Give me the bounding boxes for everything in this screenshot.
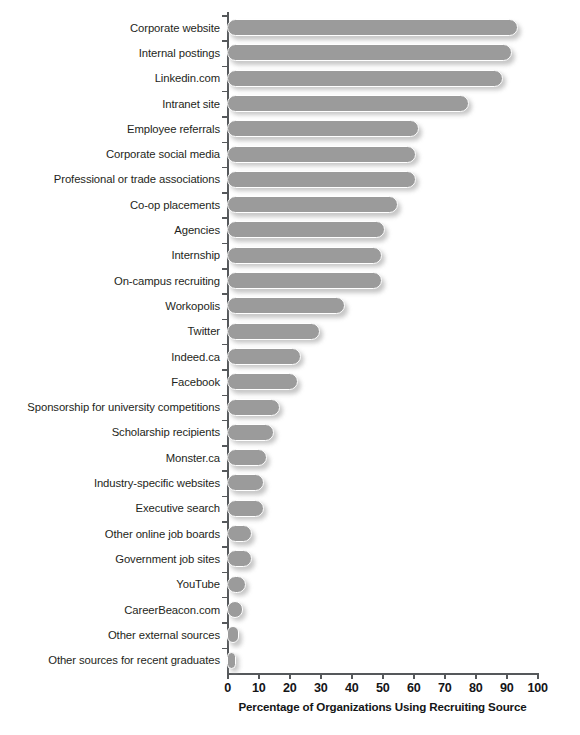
chart-row: Twitter (227, 319, 537, 344)
y-axis-tick (222, 192, 228, 194)
y-axis-tick (222, 395, 228, 397)
category-label: Twitter (187, 325, 220, 337)
x-axis-tick (382, 673, 384, 679)
category-label: Workopolis (165, 300, 220, 312)
chart-row: Internal postings (227, 40, 537, 65)
category-label: Co-op placements (130, 199, 220, 211)
category-label: Employee referrals (127, 123, 220, 135)
bar (227, 297, 345, 314)
y-axis-tick (222, 420, 228, 422)
chart-row: Sponsorship for university competitions (227, 395, 537, 420)
bar (227, 474, 264, 491)
y-axis-tick (222, 116, 228, 118)
bar (227, 500, 264, 517)
category-label: Agencies (174, 224, 220, 236)
chart-row: Professional or trade associations (227, 167, 537, 192)
chart-row: Corporate social media (227, 142, 537, 167)
y-axis-tick (222, 546, 228, 548)
chart-row: Monster.ca (227, 445, 537, 470)
chart-row: Scholarship recipients (227, 420, 537, 445)
bar (227, 44, 512, 61)
bar (227, 272, 382, 289)
y-axis-tick (222, 521, 228, 523)
category-label: Intranet site (162, 98, 220, 110)
chart-row: Linkedin.com (227, 66, 537, 91)
bar (227, 348, 301, 365)
bar (227, 550, 252, 567)
chart-row: On-campus recruiting (227, 268, 537, 293)
x-axis-tick-label: 40 (345, 681, 359, 695)
x-axis-tick-label: 30 (314, 681, 328, 695)
category-label: Monster.ca (166, 452, 220, 464)
y-axis-tick (222, 648, 228, 650)
y-axis-tick (222, 344, 228, 346)
y-axis-tick (222, 217, 228, 219)
y-axis-tick (222, 597, 228, 599)
y-axis-tick (222, 268, 228, 270)
bar (227, 449, 267, 466)
chart-row: Intranet site (227, 91, 537, 116)
chart-row: YouTube (227, 572, 537, 597)
bar (227, 120, 419, 137)
bar (227, 196, 398, 213)
category-label: YouTube (176, 578, 220, 590)
category-label: CareerBeacon.com (124, 604, 220, 616)
x-axis-tick-label: 70 (438, 681, 452, 695)
bar (227, 626, 239, 643)
chart-row: Corporate website (227, 15, 537, 40)
chart-row: Government job sites (227, 546, 537, 571)
x-axis-tick (413, 673, 415, 679)
category-label: Internship (171, 249, 220, 261)
category-label: Sponsorship for university competitions (27, 401, 220, 413)
bar (227, 171, 416, 188)
chart-row: CareerBeacon.com (227, 597, 537, 622)
bar (227, 652, 236, 669)
bar (227, 399, 280, 416)
category-label: Linkedin.com (155, 72, 220, 84)
category-label: Industry-specific websites (94, 477, 220, 489)
chart-row: Agencies (227, 217, 537, 242)
category-label: On-campus recruiting (114, 275, 220, 287)
bar (227, 146, 416, 163)
y-axis-tick (222, 15, 228, 17)
chart-row: Executive search (227, 496, 537, 521)
y-axis-tick (222, 369, 228, 371)
chart-row: Other sources for recent graduates (227, 648, 537, 673)
bar (227, 601, 243, 618)
y-axis-tick (222, 319, 228, 321)
category-label: Other online job boards (105, 528, 220, 540)
y-axis-tick (222, 91, 228, 93)
x-axis-tick-label: 80 (469, 681, 483, 695)
category-label: Other sources for recent graduates (48, 654, 220, 666)
x-axis-tick-label: 100 (527, 681, 547, 695)
bar (227, 576, 246, 593)
bar (227, 19, 518, 36)
category-label: Government job sites (115, 553, 220, 565)
y-axis-tick (222, 496, 228, 498)
bar (227, 95, 469, 112)
category-label: Indeed.ca (171, 351, 220, 363)
y-axis-tick (222, 293, 228, 295)
x-axis-tick (289, 673, 291, 679)
category-label: Professional or trade associations (54, 173, 220, 185)
category-label: Corporate social media (106, 148, 220, 160)
category-label: Internal postings (139, 47, 220, 59)
x-axis-tick-label: 90 (500, 681, 514, 695)
chart-row: Facebook (227, 369, 537, 394)
chart-row: Internship (227, 243, 537, 268)
category-label: Corporate website (130, 22, 220, 34)
category-label: Facebook (171, 376, 220, 388)
x-axis-tick (227, 673, 229, 679)
x-axis-tick (320, 673, 322, 679)
y-axis-tick (222, 572, 228, 574)
bar (227, 323, 320, 340)
y-axis-tick (222, 167, 228, 169)
category-label: Other external sources (108, 629, 220, 641)
category-label: Scholarship recipients (112, 426, 220, 438)
x-axis-title: Percentage of Organizations Using Recrui… (227, 700, 538, 713)
chart-row: Co-op placements (227, 192, 537, 217)
x-axis-tick (475, 673, 477, 679)
chart-row: Other external sources (227, 622, 537, 647)
y-axis-tick (222, 142, 228, 144)
x-axis-tick-label: 50 (376, 681, 390, 695)
